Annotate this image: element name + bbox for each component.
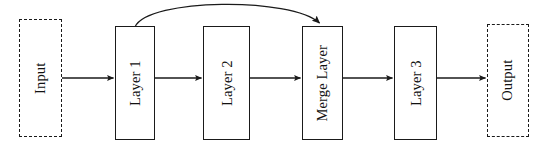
node-layer-2: Layer 2 [203, 26, 250, 140]
edge-skip-connection-curve [135, 4, 320, 27]
node-layer-1: Layer 1 [115, 26, 155, 140]
node-layer-3: Layer 3 [394, 26, 437, 140]
node-input-label: Input [33, 62, 48, 93]
diagram-canvas: Input Layer 1 Layer 2 Merge Layer Layer … [0, 0, 546, 151]
node-output: Output [487, 24, 529, 137]
node-layer-3-label: Layer 3 [408, 60, 423, 106]
node-input: Input [19, 19, 62, 137]
node-layer-1-label: Layer 1 [128, 60, 143, 106]
node-output-label: Output [501, 60, 516, 101]
edge-layer [0, 0, 546, 151]
node-merge-layer: Merge Layer [302, 26, 343, 140]
node-layer-2-label: Layer 2 [219, 60, 234, 106]
node-merge-layer-label: Merge Layer [315, 45, 330, 122]
